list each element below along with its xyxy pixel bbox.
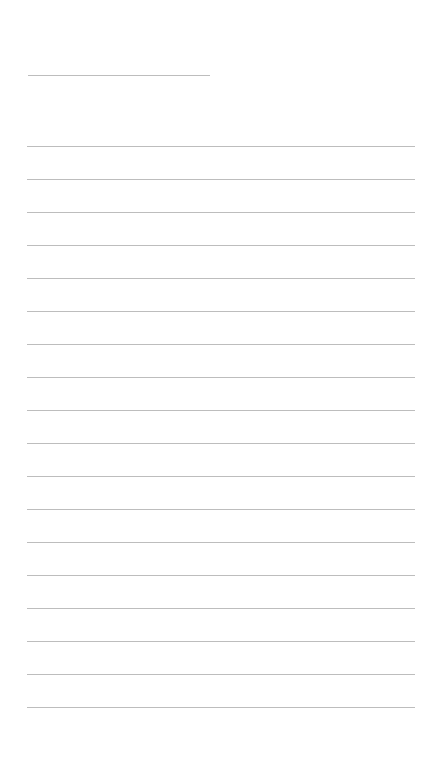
ruled-line xyxy=(27,344,415,345)
ruled-line xyxy=(27,245,415,246)
ruled-line xyxy=(27,146,415,147)
ruled-line xyxy=(27,410,415,411)
ruled-line xyxy=(27,509,415,510)
ruled-line xyxy=(27,542,415,543)
ruled-line xyxy=(27,575,415,576)
ruled-line xyxy=(27,641,415,642)
ruled-line xyxy=(27,377,415,378)
ruled-line xyxy=(27,212,415,213)
lined-paper-page xyxy=(0,0,429,767)
ruled-line xyxy=(27,707,415,708)
ruled-line xyxy=(27,278,415,279)
ruled-line xyxy=(27,476,415,477)
title-line xyxy=(28,75,210,76)
ruled-line xyxy=(27,179,415,180)
ruled-line xyxy=(27,674,415,675)
ruled-line xyxy=(27,608,415,609)
ruled-line xyxy=(27,443,415,444)
ruled-line xyxy=(27,311,415,312)
